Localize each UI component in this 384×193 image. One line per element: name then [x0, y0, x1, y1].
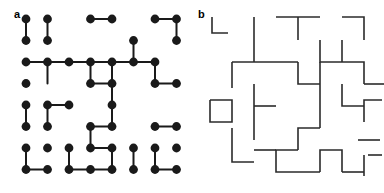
lattice-vertex — [22, 144, 31, 153]
loop-representation-diagram — [192, 0, 384, 193]
panel-b: b — [192, 0, 384, 193]
lattice-vertex — [172, 165, 181, 174]
lattice-vertex — [172, 144, 181, 153]
lattice-vertex — [65, 144, 74, 153]
lattice-vertex — [86, 15, 95, 24]
lattice-vertex — [129, 165, 138, 174]
lattice-vertex — [43, 122, 52, 131]
lattice-vertex — [86, 165, 95, 174]
lattice-vertex — [86, 144, 95, 153]
lattice-vertex — [22, 122, 31, 131]
lattice-vertex — [172, 15, 181, 24]
lattice-vertex — [108, 144, 117, 153]
loop-segment — [298, 62, 320, 84]
lattice-vertex — [65, 58, 74, 67]
lattice-vertex — [129, 36, 138, 45]
lattice-vertex — [151, 144, 160, 153]
lattice-vertex — [108, 79, 117, 88]
lattice-vertex — [43, 58, 52, 67]
lattice-vertex — [108, 165, 117, 174]
lattice-vertex — [43, 101, 52, 110]
figure-container: a b — [0, 0, 384, 193]
lattice-vertex — [22, 79, 31, 88]
loop-segment — [342, 84, 364, 106]
lattice-vertex — [86, 122, 95, 131]
lattice-vertex — [22, 165, 31, 174]
loop-segment — [320, 40, 342, 62]
lattice-vertex — [172, 36, 181, 45]
lattice-vertex — [22, 36, 31, 45]
lattice-vertex — [129, 144, 138, 153]
loop-segment — [276, 150, 320, 172]
lattice-vertex — [43, 36, 52, 45]
lattice-vertex — [43, 165, 52, 174]
lattice-vertex — [108, 122, 117, 131]
loop-segment — [212, 17, 228, 33]
lattice-vertex — [65, 101, 74, 110]
lattice-vertex — [151, 79, 160, 88]
lattice-vertex — [151, 122, 160, 131]
lattice-vertex — [86, 58, 95, 67]
lattice-vertex — [22, 15, 31, 24]
loop-segment — [298, 128, 320, 150]
lattice-vertex — [151, 58, 160, 67]
lattice-vertex — [108, 101, 117, 110]
loop-segment — [210, 100, 232, 122]
loop-segment — [320, 150, 342, 172]
loop-segment — [342, 62, 364, 84]
loop-segment — [232, 140, 254, 162]
lattice-vertex — [108, 15, 117, 24]
lattice-vertex — [172, 122, 181, 131]
lattice-vertex — [108, 58, 117, 67]
lattice-vertex — [129, 58, 138, 67]
dimer-covering-diagram — [0, 0, 192, 193]
lattice-vertex — [172, 79, 181, 88]
panel-a: a — [0, 0, 192, 193]
lattice-vertex — [43, 144, 52, 153]
loop-segment — [342, 17, 364, 40]
lattice-vertex — [151, 15, 160, 24]
lattice-vertex — [22, 58, 31, 67]
lattice-vertex — [151, 165, 160, 174]
loop-segment — [364, 100, 382, 122]
lattice-vertex — [65, 165, 74, 174]
lattice-vertex — [86, 79, 95, 88]
lattice-vertex — [43, 15, 52, 24]
lattice-vertex — [22, 101, 31, 110]
